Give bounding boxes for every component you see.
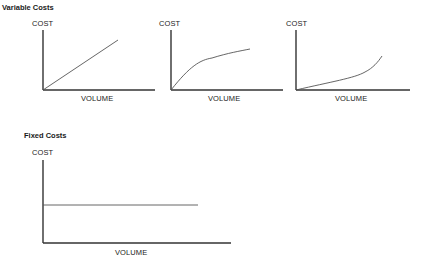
cost-charts [0, 0, 430, 260]
chart-concave [171, 30, 283, 90]
chart-fixed [43, 160, 231, 243]
chart-convex [296, 30, 410, 90]
chart-linear [43, 30, 155, 90]
